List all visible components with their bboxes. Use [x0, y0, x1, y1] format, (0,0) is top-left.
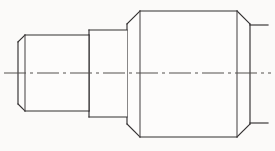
large-right-cylinder-fill [127, 11, 250, 137]
technical-drawing-canvas [0, 0, 275, 151]
drawing-svg [0, 0, 275, 151]
large-right-cylinder [127, 11, 250, 137]
projection-stub-lines [250, 25, 268, 123]
